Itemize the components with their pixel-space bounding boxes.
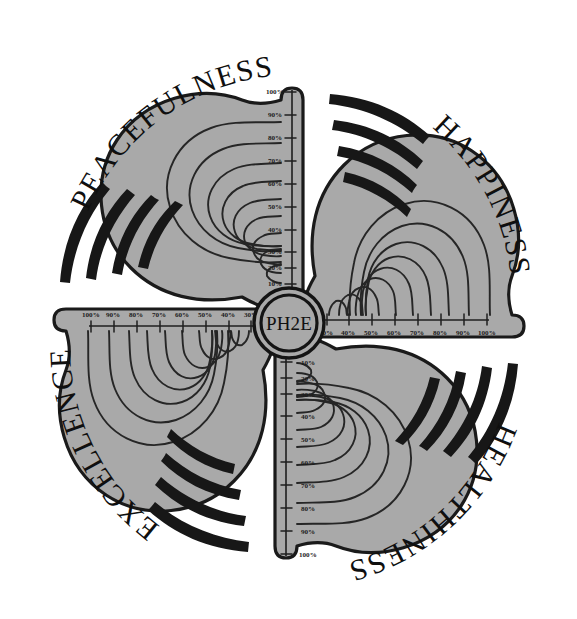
tick-peacefulness-30: 30% (268, 248, 282, 256)
tick-happiness-70: 70% (410, 329, 424, 337)
tick-excellence-40: 40% (221, 311, 235, 319)
tick-excellence-60: 60% (175, 311, 189, 319)
tick-healthiness-20: 20% (301, 375, 315, 383)
tick-healthiness-30: 30% (301, 391, 315, 399)
tick-peacefulness-50: 50% (268, 203, 282, 211)
pinwheel-canvas: 100% 90% 80% 70% 60% 50% 40% 30% 20% 10%… (0, 0, 577, 619)
tick-happiness-80: 80% (433, 329, 447, 337)
blade-group-happiness[interactable] (301, 135, 524, 337)
tick-healthiness-10: 10% (301, 359, 315, 367)
tick-healthiness-60: 60% (301, 459, 315, 467)
tick-happiness-60: 60% (387, 329, 401, 337)
tick-excellence-90: 90% (106, 311, 120, 319)
tick-peacefulness-10: 10% (268, 280, 282, 288)
tick-healthiness-90: 90% (301, 528, 315, 536)
tick-happiness-100: 100% (478, 329, 496, 337)
tick-healthiness-40: 40% (301, 413, 315, 421)
tick-excellence-80: 80% (129, 311, 143, 319)
tick-peacefulness-80: 80% (268, 134, 282, 142)
tick-peacefulness-60: 60% (268, 180, 282, 188)
ph2e-pinwheel-diagram: 100% 90% 80% 70% 60% 50% 40% 30% 20% 10%… (0, 0, 577, 619)
tick-excellence-50: 50% (198, 311, 212, 319)
tick-healthiness-100: 100% (299, 551, 317, 559)
tick-peacefulness-90: 90% (268, 111, 282, 119)
tick-happiness-40: 40% (341, 329, 355, 337)
tick-healthiness-80: 80% (301, 505, 315, 513)
tick-happiness-50: 50% (364, 329, 378, 337)
tick-peacefulness-20: 20% (268, 264, 282, 272)
tick-peacefulness-40: 40% (268, 226, 282, 234)
tick-excellence-70: 70% (152, 311, 166, 319)
tick-peacefulness-100: 100% (266, 88, 284, 96)
tick-peacefulness-70: 70% (268, 157, 282, 165)
tick-healthiness-50: 50% (301, 436, 315, 444)
tick-healthiness-70: 70% (301, 482, 315, 490)
tick-happiness-90: 90% (456, 329, 470, 337)
tick-excellence-100: 100% (82, 311, 100, 319)
hub-label: PH2E (266, 313, 312, 334)
center-hub[interactable]: PH2E (254, 288, 324, 358)
